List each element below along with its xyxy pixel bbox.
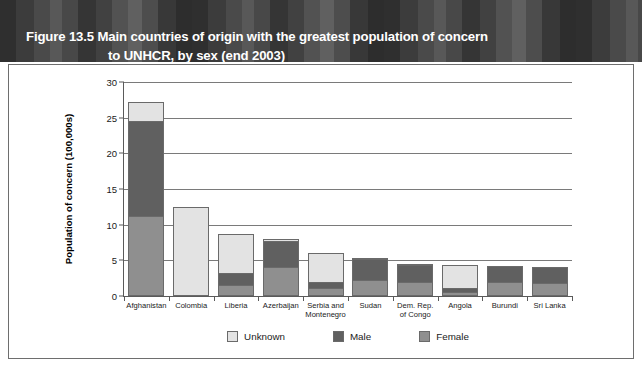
chart-legend: UnknownMaleFemale — [124, 331, 572, 342]
bar-segment-female[interactable] — [487, 282, 523, 296]
bar-segment-unknown[interactable] — [173, 207, 209, 296]
bar-segment-female[interactable] — [397, 282, 433, 296]
bar-segment-male[interactable] — [263, 241, 299, 267]
bar-segment-unknown[interactable] — [218, 234, 254, 273]
legend-swatch-female — [419, 331, 430, 342]
bar-segment-female[interactable] — [218, 285, 254, 296]
bar-segment-female[interactable] — [442, 292, 478, 296]
y-axis-tick-mark — [119, 117, 124, 118]
y-axis-tick-mark — [119, 82, 124, 83]
y-axis-tick-mark — [119, 224, 124, 225]
legend-swatch-unknown — [227, 331, 238, 342]
bar-stack[interactable] — [218, 82, 254, 296]
legend-item[interactable]: Unknown — [227, 331, 285, 342]
y-axis-tick-mark — [119, 153, 124, 154]
bar-stack[interactable] — [263, 82, 299, 296]
figure-title-line2: to UNHCR, by sex (end 2003) — [26, 46, 616, 65]
plot-area: 051015202530 — [124, 82, 572, 296]
bar-stack[interactable] — [173, 82, 209, 296]
bar-stack[interactable] — [487, 82, 523, 296]
figure-title-line1: Figure 13.5 Main countries of origin wit… — [26, 29, 488, 44]
bar-segment-male[interactable] — [532, 267, 568, 283]
bar-segment-male[interactable] — [442, 288, 478, 292]
bar-segment-male[interactable] — [487, 266, 523, 282]
bar-segment-unknown[interactable] — [128, 102, 164, 121]
bar-segment-male[interactable] — [128, 121, 164, 217]
bar-segment-unknown[interactable] — [308, 253, 344, 282]
bar-segment-female[interactable] — [532, 283, 568, 296]
y-axis-tick-mark — [119, 189, 124, 190]
bar-segment-female[interactable] — [308, 288, 344, 296]
bar-stack[interactable] — [442, 82, 478, 296]
bar-segment-female[interactable] — [128, 216, 164, 296]
bar-segment-female[interactable] — [263, 267, 299, 296]
y-axis-label: Population of concern (100,000s) — [62, 82, 76, 296]
legend-label: Female — [436, 331, 469, 342]
bar-segment-male[interactable] — [218, 273, 254, 284]
legend-label: Male — [350, 331, 371, 342]
legend-item[interactable]: Male — [333, 331, 371, 342]
bar-segment-unknown[interactable] — [263, 239, 299, 241]
bar-segment-male[interactable] — [397, 265, 433, 282]
bar-segment-male[interactable] — [352, 259, 388, 280]
bar-stack[interactable] — [308, 82, 344, 296]
x-axis-tick-mark — [572, 296, 573, 301]
bar-stack[interactable] — [128, 82, 164, 296]
bar-stack[interactable] — [397, 82, 433, 296]
bar-segment-unknown[interactable] — [397, 264, 433, 265]
bar-segment-unknown[interactable] — [442, 265, 478, 289]
legend-item[interactable]: Female — [419, 331, 469, 342]
bar-segment-male[interactable] — [308, 282, 344, 288]
x-axis-tick-label: Sri Lanka — [522, 301, 577, 310]
figure-container: Figure 13.5 Main countries of origin wit… — [0, 0, 642, 367]
bar-segment-female[interactable] — [352, 280, 388, 296]
bar-segment-unknown[interactable] — [352, 258, 388, 259]
y-axis-tick-mark — [119, 260, 124, 261]
title-banner: Figure 13.5 Main countries of origin wit… — [0, 0, 642, 62]
legend-swatch-male — [333, 331, 344, 342]
legend-label: Unknown — [244, 331, 285, 342]
bar-stack[interactable] — [352, 82, 388, 296]
bar-stack[interactable] — [532, 82, 568, 296]
